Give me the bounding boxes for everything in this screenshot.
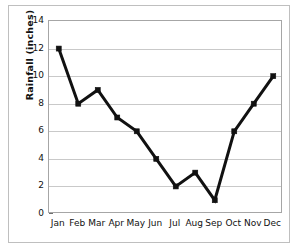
x-tick-label: Jul [165, 218, 185, 229]
rainfall-line-series [49, 21, 283, 214]
data-point-marker [76, 101, 81, 106]
data-point-marker [134, 129, 139, 134]
data-point-marker [232, 129, 237, 134]
x-tick-label: Jun [146, 218, 166, 229]
data-point-marker [212, 198, 217, 203]
data-point-marker [271, 74, 276, 79]
series-markers [56, 46, 276, 203]
data-point-marker [154, 156, 159, 161]
y-tick-label: 6 [20, 125, 44, 135]
x-tick-label: Jan [48, 218, 68, 229]
x-tick-label: May [126, 218, 146, 229]
x-tick-label: Dec [263, 218, 283, 229]
y-tick-label: 4 [20, 153, 44, 163]
x-tick-label: Aug [185, 218, 205, 229]
x-tick-label: Mar [87, 218, 107, 229]
y-tick-label: 8 [20, 98, 44, 108]
data-point-marker [56, 46, 61, 51]
x-tick-label: Oct [224, 218, 244, 229]
x-tick-label: Apr [107, 218, 127, 229]
y-tick-label: 14 [20, 15, 44, 25]
data-point-marker [95, 87, 100, 92]
x-tick-label: Feb [68, 218, 88, 229]
data-point-marker [173, 184, 178, 189]
chart-figure: Rainfall (inches) 02468101214 JanFebMarA… [8, 5, 290, 243]
x-tick-label: Nov [243, 218, 263, 229]
x-tick-label: Sep [204, 218, 224, 229]
y-tick-label: 0 [20, 208, 44, 218]
data-point-marker [251, 101, 256, 106]
data-point-marker [193, 170, 198, 175]
series-line-path [59, 49, 274, 201]
plot-area [48, 20, 282, 213]
y-tick-label: 10 [20, 70, 44, 80]
y-tick-label: 2 [20, 180, 44, 190]
data-point-marker [115, 115, 120, 120]
y-tick-label: 12 [20, 43, 44, 53]
